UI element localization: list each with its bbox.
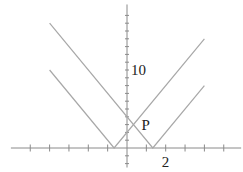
x-tick-label-2: 2	[162, 154, 170, 170]
graph: 10 2 P	[0, 0, 243, 172]
point-p-label: P	[141, 117, 149, 133]
labels: 10 2 P	[131, 62, 169, 170]
y-tick-label-10: 10	[131, 62, 146, 78]
